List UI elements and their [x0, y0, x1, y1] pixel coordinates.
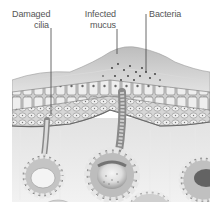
label-infected-mucus: Infected mucus [78, 9, 116, 31]
airway-illustration: Damaged cilia Infected mucus Bacteria [0, 0, 217, 210]
tissue-cross-section [0, 0, 217, 210]
central-submucosal-gland [87, 150, 137, 200]
left-submucosal-gland [23, 156, 63, 196]
label-bacteria: Bacteria [149, 9, 181, 20]
label-damaged-cilia: Damaged cilia [12, 9, 49, 31]
